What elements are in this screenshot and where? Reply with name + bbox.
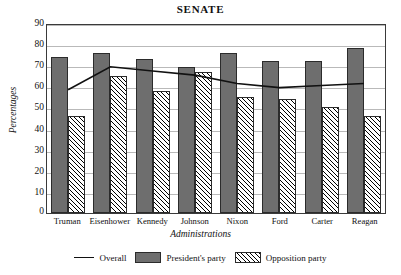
- legend-item-president: President's party: [135, 252, 225, 263]
- chart-legend: Overall President's party Opposition par…: [0, 252, 401, 263]
- opposition-swatch-icon: [235, 252, 261, 263]
- president-swatch-icon: [135, 252, 161, 263]
- x-tick-label: Carter: [301, 216, 344, 226]
- x-tick-label: Nixon: [216, 216, 259, 226]
- legend-label-president: President's party: [166, 253, 225, 263]
- overall-line: [68, 67, 364, 90]
- x-tick-label: Ford: [259, 216, 302, 226]
- y-tick-label: 30: [16, 146, 44, 156]
- x-axis-title: Administrations: [0, 229, 401, 239]
- y-tick-label: 20: [16, 167, 44, 177]
- x-tick-label: Kennedy: [131, 216, 174, 226]
- y-tick-label: 50: [16, 103, 44, 113]
- y-tick-label: 70: [16, 61, 44, 71]
- overall-line-series: [47, 25, 385, 213]
- y-tick-label: 10: [16, 188, 44, 198]
- x-axis-ticks: TrumanEisenhowerKennedyJohnsonNixonFordC…: [46, 216, 386, 226]
- x-tick-label: Johnson: [174, 216, 217, 226]
- plot-area: [46, 24, 386, 214]
- legend-item-overall: Overall: [74, 253, 126, 263]
- line-swatch-icon: [74, 257, 94, 258]
- y-tick-zero: 0: [16, 206, 44, 216]
- y-tick-label: 90: [16, 19, 44, 29]
- legend-item-opposition: Opposition party: [235, 252, 327, 263]
- y-tick-label: 40: [16, 125, 44, 135]
- senate-chart: SENATE Percentages 102030405060708090 0 …: [0, 0, 401, 275]
- x-tick-label: Eisenhower: [89, 216, 132, 226]
- legend-label-overall: Overall: [99, 253, 126, 263]
- chart-title: SENATE: [0, 3, 401, 15]
- x-tick-label: Truman: [46, 216, 89, 226]
- y-tick-label: 60: [16, 82, 44, 92]
- y-tick-label: 80: [16, 40, 44, 50]
- x-tick-label: Reagan: [344, 216, 387, 226]
- legend-label-opposition: Opposition party: [266, 253, 327, 263]
